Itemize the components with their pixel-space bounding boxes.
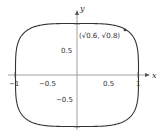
chart: x y (√0.6, √0.8) −1 −0.5 0.5 1 0.5 −0.5	[0, 0, 158, 136]
x-axis-arrow-icon	[145, 73, 150, 77]
x-tick-neg05: −0.5	[39, 80, 56, 88]
y-axis-arrow-icon	[75, 10, 79, 15]
y-axis-label: y	[79, 4, 85, 13]
x-tick-neg1: −1	[9, 80, 19, 88]
chart-svg: x y (√0.6, √0.8) −1 −0.5 0.5 1 0.5 −0.5	[0, 0, 158, 136]
point-label: (√0.6, √0.8)	[79, 32, 120, 40]
annotated-point	[124, 29, 127, 32]
y-tick-neg05: −0.5	[56, 96, 73, 104]
y-tick-05: 0.5	[61, 47, 72, 55]
x-tick-1: 1	[136, 80, 140, 88]
x-axis-label: x	[152, 71, 157, 80]
x-tick-05: 0.5	[103, 80, 114, 88]
